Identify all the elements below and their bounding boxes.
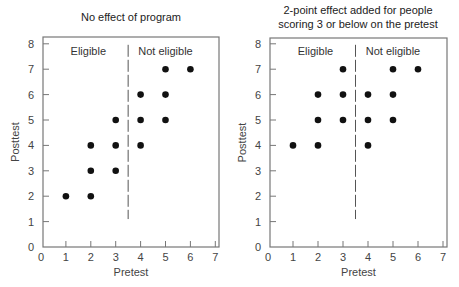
data-point: [365, 142, 372, 149]
y-tick-label: 1: [28, 216, 34, 228]
y-tick-label: 4: [255, 139, 261, 151]
data-point: [340, 117, 347, 124]
x-tick-label: 4: [138, 251, 144, 263]
chart-title: No effect of program: [81, 11, 181, 23]
data-point: [162, 117, 169, 124]
data-point: [88, 142, 95, 149]
x-tick-label: 1: [290, 251, 296, 263]
data-point: [290, 142, 297, 149]
scatter-chart-figure: No effect of program01234567801234567Pre…: [0, 0, 459, 287]
x-tick-label: 6: [415, 251, 421, 263]
chart-title: scoring 3 or below on the pretest: [278, 18, 438, 30]
data-point: [88, 193, 95, 200]
not-eligible-label: Not eligible: [138, 45, 192, 57]
y-tick-label: 7: [28, 63, 34, 75]
eligible-label: Eligible: [71, 45, 106, 57]
y-tick-label: 6: [255, 89, 261, 101]
y-tick-label: 0: [255, 241, 261, 253]
panel-no-effect: No effect of program01234567801234567Pre…: [9, 11, 219, 278]
x-tick-label: 5: [390, 251, 396, 263]
y-tick-label: 4: [28, 139, 34, 151]
data-point: [162, 66, 169, 73]
data-point: [315, 91, 322, 98]
y-tick-label: 5: [28, 114, 34, 126]
data-point: [340, 66, 347, 73]
data-point: [315, 142, 322, 149]
y-tick-label: 6: [28, 89, 34, 101]
data-point: [112, 168, 119, 175]
data-point: [187, 66, 194, 73]
data-point: [365, 117, 372, 124]
x-tick-label: 5: [162, 251, 168, 263]
y-axis-label: Posttest: [9, 122, 21, 162]
y-tick-label: 2: [28, 190, 34, 202]
x-tick-label: 3: [340, 251, 346, 263]
data-point: [415, 66, 422, 73]
x-tick-label: 2: [88, 251, 94, 263]
data-point: [112, 142, 119, 149]
data-point: [137, 117, 144, 124]
x-tick-label: 1: [63, 251, 69, 263]
y-tick-label: 8: [255, 38, 261, 50]
x-tick-label: 7: [440, 251, 446, 263]
y-tick-label: 2: [255, 190, 261, 202]
x-tick-label: 3: [113, 251, 119, 263]
x-tick-label: 0: [38, 251, 44, 263]
x-tick-label: 0: [265, 251, 271, 263]
x-axis-label: Pretest: [341, 266, 376, 278]
y-tick-label: 1: [255, 216, 261, 228]
x-tick-label: 2: [315, 251, 321, 263]
data-point: [365, 91, 372, 98]
data-point: [137, 91, 144, 98]
chart-title: 2-point effect added for people: [283, 4, 432, 16]
x-tick-label: 6: [187, 251, 193, 263]
panel-two-point-effect: 2-point effect added for peoplescoring 3…: [236, 4, 447, 278]
y-tick-label: 7: [255, 63, 261, 75]
data-point: [390, 117, 397, 124]
data-point: [390, 66, 397, 73]
y-tick-label: 3: [28, 165, 34, 177]
data-point: [340, 91, 347, 98]
y-tick-label: 5: [255, 114, 261, 126]
x-axis-label: Pretest: [114, 266, 149, 278]
y-axis-label: Posttest: [236, 123, 248, 163]
y-tick-label: 3: [255, 165, 261, 177]
y-tick-label: 0: [28, 241, 34, 253]
eligible-label: Eligible: [298, 45, 333, 57]
data-point: [137, 142, 144, 149]
data-point: [63, 193, 70, 200]
data-point: [162, 91, 169, 98]
not-eligible-label: Not eligible: [366, 45, 420, 57]
data-point: [112, 117, 119, 124]
data-point: [315, 117, 322, 124]
data-point: [88, 168, 95, 175]
y-tick-label: 8: [28, 38, 34, 50]
x-tick-label: 4: [365, 251, 371, 263]
x-tick-label: 7: [212, 251, 218, 263]
data-point: [390, 91, 397, 98]
